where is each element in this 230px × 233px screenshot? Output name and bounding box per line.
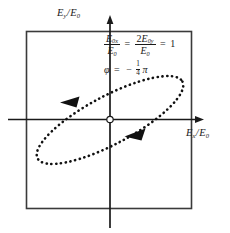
polarization-ellipse-figure: Ey/E0 Ex/E0 E0x E0 = 2E0y E0 = 1 φ = − 1 — [0, 0, 230, 233]
phase-symbol: φ — [104, 64, 110, 75]
direction-arrowhead-upper — [60, 97, 80, 108]
y-axis-label: Ey/E0 — [57, 8, 80, 19]
amplitude-term-1: E0x E0 — [104, 33, 120, 57]
y-axis-arrowhead — [107, 15, 114, 24]
x-axis-arrowhead — [195, 116, 204, 123]
origin-marker — [107, 116, 113, 122]
amplitude-term-2-denominator: E0 — [135, 45, 156, 57]
y-axis-label-denominator-sub: 0 — [77, 12, 80, 19]
annotation-block: E0x E0 = 2E0y E0 = 1 φ = − 1 4 π — [104, 33, 200, 79]
amplitude-equation: E0x E0 = 2E0y E0 = 1 — [104, 33, 200, 59]
phase-equals: = — [112, 64, 122, 75]
amplitude-equals-1: = — [122, 38, 132, 49]
phase-equation: φ = − 1 4 π — [104, 62, 200, 79]
x-axis-label: Ex/E0 — [186, 128, 209, 139]
amplitude-value: 1 — [170, 38, 175, 49]
amplitude-equals-2: = — [158, 38, 168, 49]
amplitude-term-2: 2E0y E0 — [135, 33, 156, 57]
phase-pi-symbol: π — [142, 64, 147, 75]
phase-fraction-denominator: 4 — [136, 70, 140, 78]
y-axis-label-numerator-sub: y — [63, 12, 66, 19]
amplitude-term-1-denominator: E0 — [104, 45, 120, 57]
y-axis-label-denominator: E — [70, 7, 76, 18]
phase-sign: − — [124, 64, 134, 75]
x-axis-label-denominator-sub: 0 — [206, 132, 209, 139]
phase-fraction: 1 4 — [136, 61, 140, 78]
x-axis-label-numerator-sub: x — [192, 132, 195, 139]
amplitude-term-1-numerator: E0x — [104, 33, 120, 46]
amplitude-term-2-numerator: 2E0y — [135, 33, 156, 46]
x-axis-label-denominator: E — [199, 127, 205, 138]
